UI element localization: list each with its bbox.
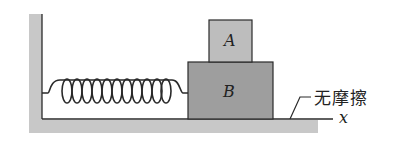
frictionless-label: 无摩擦 [314,84,368,109]
wall [29,14,42,133]
x-axis-label: x [339,108,348,127]
floor [29,120,318,133]
block-b-label: B [223,82,235,101]
diagram-canvas [0,0,397,144]
spring [42,79,188,103]
block-a-label: A [224,31,236,50]
leader-line [290,97,311,119]
